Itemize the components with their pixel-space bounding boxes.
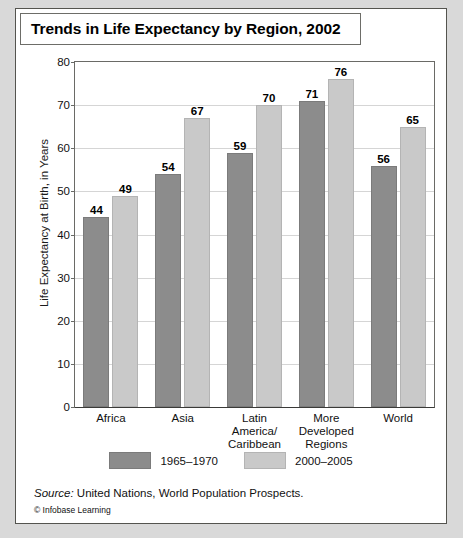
y-axis-tick-label: 60 — [57, 142, 70, 154]
source-value: United Nations, World Population Prospec… — [74, 487, 304, 499]
y-axis-tick-label: 0 — [64, 401, 70, 413]
legend-label: 1965–1970 — [160, 455, 218, 467]
legend-label: 2000–2005 — [295, 455, 353, 467]
figure-card: Trends in Life Expectancy by Region, 200… — [15, 8, 447, 524]
y-axis-tick-mark — [71, 235, 75, 236]
y-axis-tick-mark — [71, 105, 75, 106]
source-label: Source: — [34, 487, 74, 499]
y-axis-tick-label: 50 — [57, 185, 70, 197]
bar: 76 — [328, 79, 354, 407]
bar-value-label: 70 — [263, 92, 276, 104]
bar-value-label: 49 — [119, 183, 132, 195]
bar-value-label: 67 — [191, 105, 204, 117]
legend-swatch — [244, 452, 286, 469]
x-axis-category-line: Developed — [290, 425, 362, 438]
chart-figure: Trends in Life Expectancy by Region, 200… — [0, 0, 463, 538]
bar-value-label: 71 — [305, 88, 318, 100]
legend-item: 2000–2005 — [244, 452, 353, 469]
x-axis-category-label: Africa — [75, 412, 147, 425]
x-axis-category-line: Caribbean — [219, 438, 291, 451]
bar-value-label: 59 — [234, 140, 247, 152]
bar-value-label: 76 — [334, 66, 347, 78]
legend-swatch — [109, 452, 151, 469]
gridline — [75, 148, 434, 149]
plot-area: 010203040506070804449Africa5467Asia5970L… — [74, 61, 435, 408]
bar: 59 — [227, 153, 253, 407]
bar-value-label: 56 — [377, 153, 390, 165]
y-axis-tick-label: 40 — [57, 229, 70, 241]
x-axis-category-label: World — [362, 412, 434, 425]
y-axis-tick-mark — [71, 321, 75, 322]
chart-plot-region: Life Expectancy at Birth, in Years 01020… — [16, 47, 446, 447]
y-axis-tick-mark — [71, 278, 75, 279]
page-title: Trends in Life Expectancy by Region, 200… — [21, 20, 340, 38]
legend-item: 1965–1970 — [109, 452, 218, 469]
x-axis-category-line: Latin America/ — [219, 412, 291, 438]
bar-value-label: 44 — [90, 204, 103, 216]
x-axis-category-label: Latin America/Caribbean — [219, 412, 291, 451]
y-axis-label: Life Expectancy at Birth, in Years — [38, 63, 50, 383]
bar: 44 — [83, 217, 109, 407]
bar: 54 — [155, 174, 181, 407]
y-axis-tick-mark — [71, 191, 75, 192]
y-axis-tick-label: 20 — [57, 315, 70, 327]
y-axis-tick-mark — [71, 62, 75, 63]
bar: 65 — [400, 127, 426, 407]
source-line: Source: United Nations, World Population… — [34, 487, 304, 499]
x-axis-category-line: More — [290, 412, 362, 425]
x-axis-category-line: Regions — [290, 438, 362, 451]
bar: 70 — [256, 105, 282, 407]
y-axis-tick-label: 30 — [57, 272, 70, 284]
chart-legend: 1965–19702000–2005 — [16, 452, 446, 469]
bar: 49 — [112, 196, 138, 407]
chart-title-box: Trends in Life Expectancy by Region, 200… — [20, 13, 361, 45]
bar-value-label: 65 — [406, 114, 419, 126]
x-axis-category-line: Asia — [147, 412, 219, 425]
x-axis-category-line: Africa — [75, 412, 147, 425]
y-axis-tick-mark — [71, 364, 75, 365]
y-axis-tick-mark — [71, 407, 75, 408]
credit-line: © Infobase Learning — [34, 505, 111, 515]
bar: 71 — [299, 101, 325, 407]
x-axis-category-label: Asia — [147, 412, 219, 425]
x-axis-category-label: MoreDevelopedRegions — [290, 412, 362, 451]
bar-value-label: 54 — [162, 161, 175, 173]
x-axis-category-line: World — [362, 412, 434, 425]
y-axis-tick-label: 10 — [57, 358, 70, 370]
bar: 56 — [371, 166, 397, 408]
bar: 67 — [184, 118, 210, 407]
gridline — [75, 105, 434, 106]
y-axis-tick-mark — [71, 148, 75, 149]
y-axis-tick-label: 80 — [57, 56, 70, 68]
y-axis-tick-label: 70 — [57, 99, 70, 111]
